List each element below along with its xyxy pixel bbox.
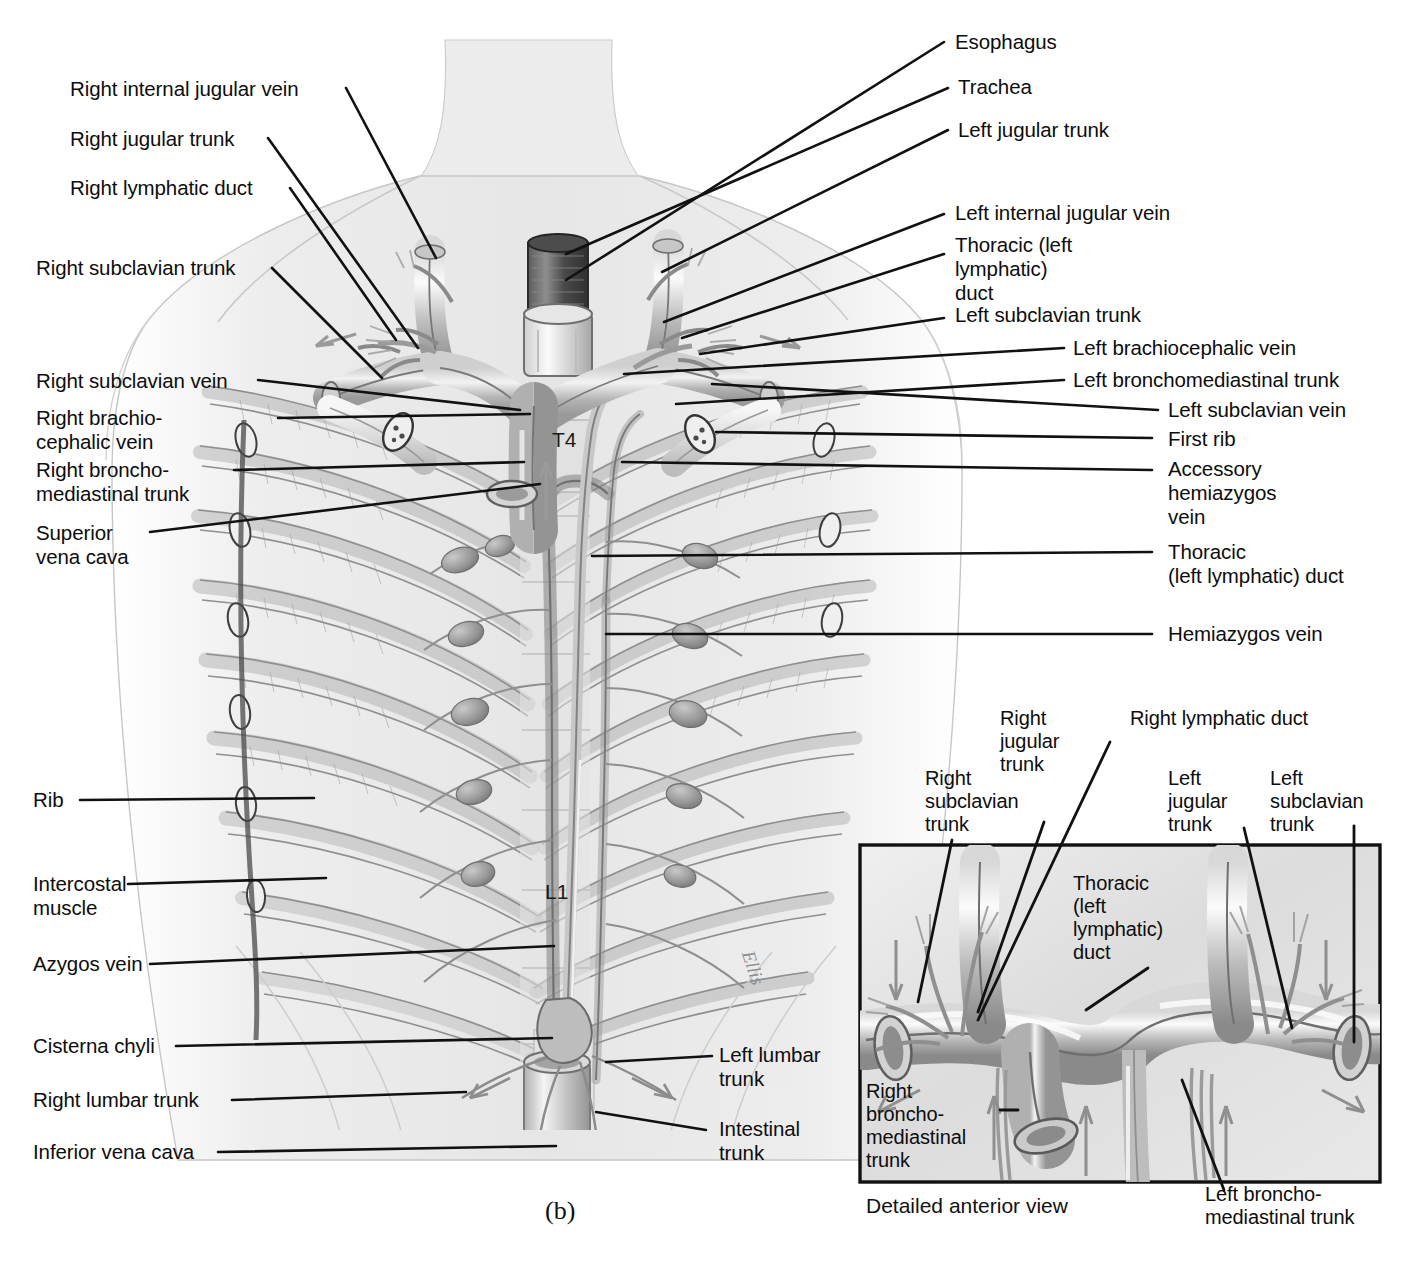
label-right-brachiocephalic-vein: Right brachio- cephalic vein (36, 406, 162, 454)
figure-canvas: Right internal jugular vein Right jugula… (0, 0, 1411, 1279)
label-left-brachiocephalic-vein: Left brachiocephalic vein (1073, 336, 1296, 360)
label-superior-vena-cava: Superior vena cava (36, 521, 129, 569)
inset-label-left-subclavian-trunk: Left subclavian trunk (1270, 767, 1364, 836)
label-hemiazygos-vein: Hemiazygos vein (1168, 622, 1323, 646)
vertebra-label-t4: T4 (552, 428, 577, 452)
label-right-subclavian-vein: Right subclavian vein (36, 369, 228, 393)
label-right-internal-jugular-vein: Right internal jugular vein (70, 77, 299, 101)
vertebra-label-l1: L1 (545, 880, 568, 904)
inset-label-right-jugular-trunk: Right jugular trunk (1000, 707, 1059, 776)
inset-caption: Detailed anterior view (866, 1194, 1068, 1218)
inset-label-thoracic-left-lymphatic-duct: Thoracic (left lymphatic) duct (1073, 872, 1163, 964)
label-left-bronchomediastinal-trunk: Left bronchomediastinal trunk (1073, 368, 1339, 392)
label-right-lymphatic-duct: Right lymphatic duct (70, 176, 253, 200)
label-esophagus: Esophagus (955, 30, 1057, 54)
label-azygos-vein: Azygos vein (33, 952, 142, 976)
esophagus (524, 304, 592, 376)
inset-label-left-jugular-trunk: Left jugular trunk (1168, 767, 1227, 836)
label-right-jugular-trunk: Right jugular trunk (70, 127, 234, 151)
label-thoracic-left-lymphatic-duct-upper: Thoracic (left lymphatic) duct (955, 233, 1072, 305)
label-cisterna-chyli: Cisterna chyli (33, 1034, 155, 1058)
panel-caption: (b) (545, 1196, 575, 1226)
label-intestinal-trunk: Intestinal trunk (719, 1117, 800, 1165)
inset-label-left-bronchomediastinal-trunk: Left broncho- mediastinal trunk (1205, 1183, 1354, 1229)
label-rib: Rib (33, 788, 63, 812)
label-right-lumbar-trunk: Right lumbar trunk (33, 1088, 199, 1112)
inset-label-right-subclavian-trunk: Right subclavian trunk (925, 767, 1019, 836)
label-trachea: Trachea (958, 75, 1032, 99)
label-left-subclavian-vein: Left subclavian vein (1168, 398, 1346, 422)
label-inferior-vena-cava: Inferior vena cava (33, 1140, 194, 1164)
label-intercostal-muscle: Intercostal muscle (33, 872, 126, 920)
label-first-rib: First rib (1168, 427, 1235, 451)
label-left-internal-jugular-vein: Left internal jugular vein (955, 201, 1170, 225)
label-right-bronchomediastinal-trunk: Right broncho- mediastinal trunk (36, 458, 189, 506)
label-left-jugular-trunk: Left jugular trunk (958, 118, 1109, 142)
label-right-subclavian-trunk: Right subclavian trunk (36, 256, 236, 280)
inset-label-right-bronchomediastinal-trunk: Right broncho- mediastinal trunk (866, 1080, 966, 1172)
label-accessory-hemiazygos-vein: Accessory hemiazygos vein (1168, 457, 1276, 529)
label-left-lumbar-trunk: Left lumbar trunk (719, 1043, 820, 1091)
label-left-subclavian-trunk: Left subclavian trunk (955, 303, 1141, 327)
inset-label-right-lymphatic-duct: Right lymphatic duct (1130, 707, 1308, 730)
label-thoracic-left-lymphatic-duct-lower: Thoracic (left lymphatic) duct (1168, 540, 1344, 588)
cisterna-chyli (537, 998, 592, 1063)
